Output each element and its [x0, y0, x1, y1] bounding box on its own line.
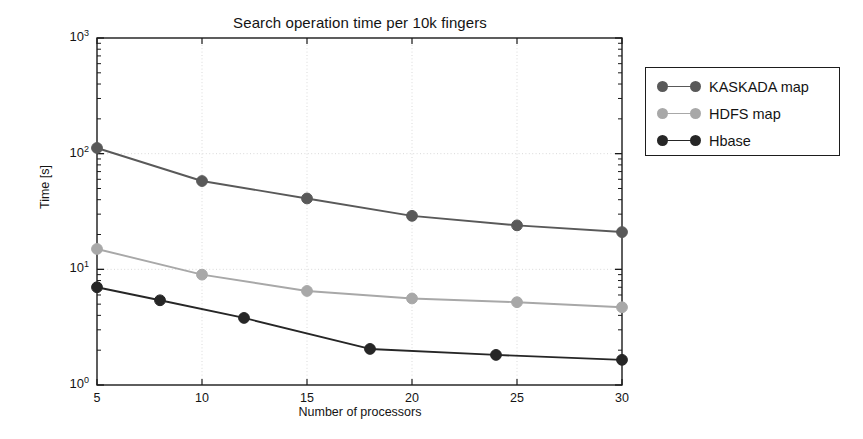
legend-item-1[interactable]: HDFS map: [646, 100, 839, 127]
series-line-0: [97, 148, 622, 232]
data-point: [302, 193, 313, 204]
legend-item-2[interactable]: Hbase: [646, 127, 839, 154]
data-point: [617, 227, 628, 238]
legend-item-0[interactable]: KASKADA map: [646, 73, 839, 100]
axis-ticks: [97, 38, 622, 385]
figure-container: Search operation time per 10k fingers Ti…: [0, 0, 863, 439]
data-point: [407, 210, 418, 221]
x-tick-label: 20: [392, 391, 432, 405]
data-point: [92, 244, 103, 255]
data-series: [92, 143, 628, 366]
y-tick-label: 100: [37, 375, 89, 391]
legend-label: KASKADA map: [709, 79, 809, 95]
legend-marker-icon: [655, 134, 703, 148]
x-tick-label: 10: [182, 391, 222, 405]
series-line-2: [97, 287, 622, 360]
y-tick-label: 101: [37, 259, 89, 275]
legend: KASKADA mapHDFS mapHbase: [645, 67, 840, 156]
plot-area: [0, 0, 863, 439]
data-point: [512, 220, 523, 231]
x-tick-label: 5: [77, 391, 117, 405]
legend-label: HDFS map: [709, 106, 781, 122]
legend-marker-icon: [655, 80, 703, 94]
data-point: [365, 344, 376, 355]
data-point: [491, 350, 502, 361]
data-point: [155, 295, 166, 306]
data-point: [197, 269, 208, 280]
data-point: [197, 176, 208, 187]
x-tick-label: 30: [602, 391, 642, 405]
plot-frame: [97, 38, 622, 385]
y-tick-label: 103: [37, 28, 89, 44]
data-point: [92, 143, 103, 154]
data-point: [512, 297, 523, 308]
legend-marker-icon: [655, 107, 703, 121]
legend-label: Hbase: [709, 133, 751, 149]
grid-lines: [97, 38, 622, 385]
data-point: [617, 354, 628, 365]
x-tick-label: 15: [287, 391, 327, 405]
data-point: [92, 282, 103, 293]
data-point: [407, 293, 418, 304]
data-point: [302, 286, 313, 297]
y-tick-label: 102: [37, 144, 89, 160]
x-tick-label: 25: [497, 391, 537, 405]
series-line-1: [97, 249, 622, 307]
data-point: [617, 302, 628, 313]
data-point: [239, 313, 250, 324]
